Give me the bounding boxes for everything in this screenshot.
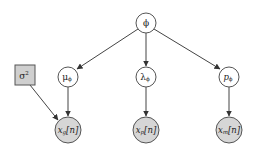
node-phi-label: ϕ (143, 18, 149, 28)
node-p-phi: pϕ (219, 67, 239, 87)
node-mu-phi: μϕ (58, 67, 78, 87)
edge-phi-to-p (154, 29, 220, 69)
graphical-model-diagram: ϕ σ2 μϕ λϕ pϕ xg[n] xp[n] xm[n] (0, 0, 257, 155)
node-x-m: xm[n] (216, 117, 242, 143)
node-x-g: xg[n] (55, 117, 81, 143)
node-xg-label: xg[n] (58, 125, 79, 136)
node-xm-label: xm[n] (218, 125, 241, 135)
edge-phi-to-mu (77, 29, 138, 69)
node-xp-label: xp[n] (136, 125, 157, 136)
node-lambda-phi: λϕ (136, 67, 156, 87)
edge-sigma-to-xg (30, 85, 58, 120)
node-phi: ϕ (136, 13, 156, 33)
node-sigma-squared: σ2 (15, 65, 35, 85)
node-x-p: xp[n] (133, 117, 159, 143)
